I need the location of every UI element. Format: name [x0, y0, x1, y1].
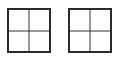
- horizontal-divider: [9, 30, 49, 31]
- horizontal-divider: [70, 30, 110, 31]
- grid-right: [68, 8, 112, 53]
- grid-left: [7, 8, 51, 53]
